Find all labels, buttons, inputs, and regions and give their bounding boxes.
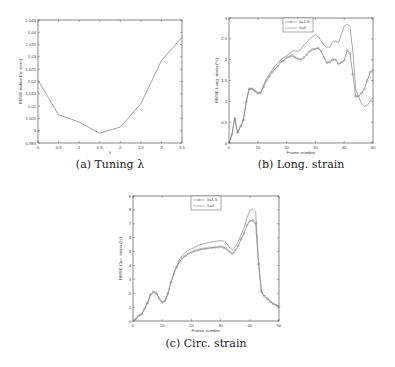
caption-long-strain: (b) Long. strain bbox=[229, 158, 373, 171]
x-tick-label: 10 bbox=[255, 145, 260, 150]
x-axis-label: Frame number bbox=[287, 150, 316, 155]
y-tick-label: 9 bbox=[129, 194, 132, 199]
y-tick-label: 3 bbox=[225, 16, 228, 21]
x-tick-label: 1 bbox=[78, 145, 81, 150]
x-tick-label: 3.5 bbox=[179, 145, 185, 150]
y-tick-label: 1 bbox=[129, 305, 132, 310]
y-tick-label: 5 bbox=[129, 249, 132, 254]
y-tick-label: 1.015 bbox=[26, 91, 37, 96]
y-axis-label: RMSE radius Err. (mm) bbox=[18, 58, 23, 104]
y-axis-label: RMSE Circ. strain (%) bbox=[118, 236, 123, 279]
chart-tuning-lambda: 00.511.522.533.50.99511.0051.011.0151.02… bbox=[18, 18, 186, 156]
figure-canvas: 00.511.522.533.50.99511.0051.011.0151.02… bbox=[0, 0, 395, 367]
x-tick-label: 50 bbox=[277, 323, 282, 328]
x-axis-label: λ bbox=[109, 150, 112, 155]
y-tick-label: 0.5 bbox=[221, 120, 227, 125]
legend-entry: λ=1.5 bbox=[299, 19, 310, 24]
y-tick-label: 1.005 bbox=[26, 116, 37, 121]
legend-entry: λ=0 bbox=[299, 25, 307, 30]
y-tick-label: 1.02 bbox=[28, 79, 37, 84]
x-axis-label: Frame number bbox=[192, 328, 221, 333]
x-tick-label: 2.5 bbox=[138, 145, 144, 150]
x-tick-label: 2 bbox=[119, 145, 122, 150]
y-tick-label: 1.5 bbox=[221, 78, 227, 83]
y-tick-label: 1.01 bbox=[28, 104, 37, 109]
y-tick-label: 1.03 bbox=[28, 54, 37, 59]
legend-entry: λ=1.5 bbox=[207, 197, 218, 202]
x-tick-label: 40 bbox=[247, 323, 252, 328]
x-tick-label: 0 bbox=[132, 323, 135, 328]
y-tick-label: 6 bbox=[129, 235, 132, 240]
legend: λ=1.5λ=0 bbox=[191, 196, 221, 210]
x-tick-label: 10 bbox=[160, 323, 165, 328]
x-tick-label: 50 bbox=[371, 145, 376, 150]
chart-long-strain: 0102030405000.511.522.53Frame numberRMSE… bbox=[214, 16, 376, 156]
plot-area bbox=[133, 196, 279, 321]
x-tick-label: 0 bbox=[37, 145, 40, 150]
y-tick-label: 1.035 bbox=[26, 42, 37, 47]
y-tick-label: 1 bbox=[225, 99, 228, 104]
y-tick-label: 1 bbox=[34, 128, 37, 133]
caption-circ-strain: (c) Circ. strain bbox=[133, 337, 279, 350]
caption-tuning-lambda: (a) Tuning λ bbox=[38, 158, 182, 171]
y-tick-label: 1.04 bbox=[28, 30, 37, 35]
chart-circ-strain: 010203040500123456789Frame numberRMSE Ci… bbox=[118, 194, 282, 334]
y-tick-label: 2 bbox=[225, 57, 228, 62]
y-tick-label: 7 bbox=[129, 221, 132, 226]
y-tick-label: 8 bbox=[129, 207, 132, 212]
y-tick-label: 1.025 bbox=[26, 67, 37, 72]
legend: λ=1.5λ=0 bbox=[283, 18, 313, 32]
y-tick-label: 2.5 bbox=[221, 36, 227, 41]
y-axis-label: RMSE Long. strain (%) bbox=[214, 58, 219, 103]
y-tick-label: 0.995 bbox=[26, 141, 37, 146]
x-tick-label: 3 bbox=[160, 145, 163, 150]
y-tick-label: 3 bbox=[129, 277, 132, 282]
legend-entry: λ=0 bbox=[207, 203, 215, 208]
y-tick-label: 4 bbox=[129, 263, 132, 268]
x-tick-label: 1.5 bbox=[97, 145, 103, 150]
x-tick-label: 0 bbox=[228, 145, 231, 150]
y-tick-label: 2 bbox=[129, 291, 132, 296]
y-tick-label: 1.045 bbox=[26, 18, 37, 23]
plot-area bbox=[38, 20, 182, 143]
x-tick-label: 40 bbox=[342, 145, 347, 150]
x-tick-label: 0.5 bbox=[56, 145, 62, 150]
